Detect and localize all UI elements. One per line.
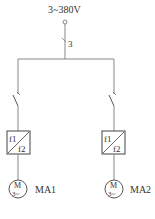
motor-symbol-m: M xyxy=(14,181,21,190)
motor-symbol-m: M xyxy=(110,181,117,190)
converter-input-freq-label: f1 xyxy=(9,134,17,144)
branch-left: f1 f2 M 3~ MA1 xyxy=(7,59,56,198)
phase-count-label: 3 xyxy=(68,39,73,49)
figure-caption-clipped xyxy=(0,212,155,219)
branch-right: f1 f2 M 3~ MA2 xyxy=(102,59,151,198)
motor-symbol-3ph: 3~ xyxy=(12,190,20,198)
switch-icon xyxy=(13,95,18,106)
converter-input-freq-label: f1 xyxy=(104,134,112,144)
converter-output-freq-label: f2 xyxy=(113,144,121,154)
motor-label: MA1 xyxy=(35,184,56,195)
supply-label: 3~380V xyxy=(48,4,81,15)
supply-terminal xyxy=(63,20,67,24)
drive-circuit-diagram: 3~380V 3 f1 f2 M 3~ MA1 f1 f2 M 3~ MA2 xyxy=(0,0,155,219)
switch-icon xyxy=(109,95,114,106)
converter-output-freq-label: f2 xyxy=(18,144,26,154)
motor-label: MA2 xyxy=(130,184,151,195)
motor-symbol-3ph: 3~ xyxy=(108,190,116,198)
